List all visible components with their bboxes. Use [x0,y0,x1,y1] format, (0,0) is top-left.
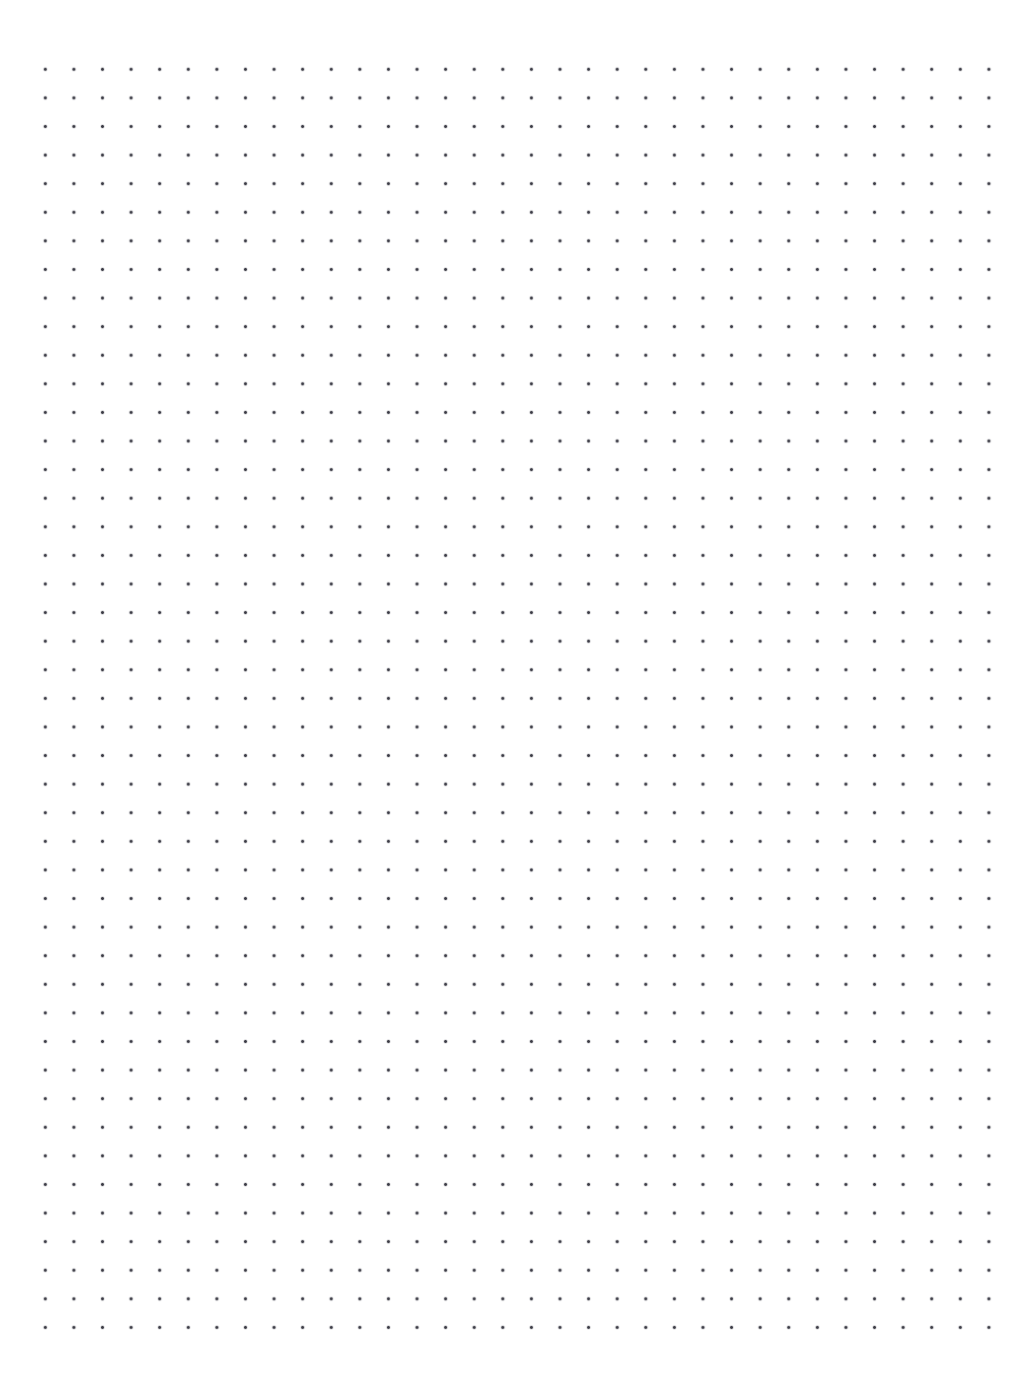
dot-grid-surface [0,0,1034,1388]
dot-grid-page [0,0,1034,1388]
